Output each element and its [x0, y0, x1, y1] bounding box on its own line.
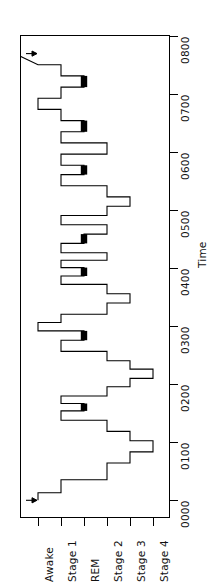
rem-episode-bar — [81, 234, 87, 243]
time-axis: 0000 0100 0200 0300 0400 0500 0600 0700 … — [170, 35, 178, 518]
stage-tick — [153, 518, 154, 526]
time-tick — [170, 442, 178, 443]
stage-label-stage-1: Stage 1 — [66, 540, 78, 582]
time-label-0700: 0700 — [179, 94, 191, 122]
stage-tick — [107, 518, 108, 526]
rem-episode-bar — [81, 121, 87, 132]
time-tick — [170, 326, 178, 327]
time-tick — [170, 210, 178, 211]
stage-label-stage-4: Stage 4 — [158, 540, 170, 582]
rem-episode-bar — [81, 331, 87, 340]
lights-off-arrow — [26, 498, 37, 503]
rem-episode-bar — [81, 404, 87, 411]
stage-tick — [38, 518, 39, 526]
time-label-0200: 0200 — [179, 384, 191, 412]
time-tick — [170, 500, 178, 501]
rem-episode-bar — [81, 165, 87, 174]
time-tick — [170, 94, 178, 95]
time-label-0400: 0400 — [179, 268, 191, 296]
stage-tick — [84, 518, 85, 526]
time-label-0300: 0300 — [179, 326, 191, 354]
time-label-0000: 0000 — [179, 500, 191, 528]
time-label-0500: 0500 — [179, 210, 191, 238]
time-tick — [170, 152, 178, 153]
time-tick — [170, 268, 178, 269]
time-label-0600: 0600 — [179, 152, 191, 180]
time-tick — [170, 36, 178, 37]
hypnogram-trace — [20, 35, 170, 518]
stage-axis: Awake Stage 1 REM Stage 2 Stage 3 Stage … — [20, 518, 170, 528]
time-tick — [170, 384, 178, 385]
time-axis-title: Time — [196, 242, 208, 269]
time-label-0100: 0100 — [179, 442, 191, 470]
lights-on-arrow — [26, 51, 37, 56]
hypnogram-figure: Awake Stage 1 REM Stage 2 Stage 3 Stage … — [0, 0, 213, 583]
stage-label-stage-3: Stage 3 — [135, 540, 147, 582]
stage-label-stage-2: Stage 2 — [112, 540, 124, 582]
rem-episode-bar — [81, 268, 87, 276]
stage-tick — [61, 518, 62, 526]
stage-label-rem: REM — [89, 558, 101, 582]
stage-tick — [130, 518, 131, 526]
time-label-0800: 0800 — [179, 36, 191, 64]
stage-label-awake: Awake — [43, 547, 55, 582]
rem-episode-bar — [81, 76, 87, 87]
